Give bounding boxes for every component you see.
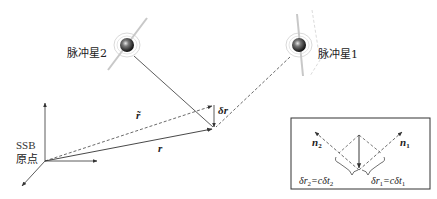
- r-label: r: [158, 142, 163, 154]
- origin-label: 原点: [16, 153, 38, 166]
- delta-r-label: δr: [218, 104, 229, 116]
- pulsar-2-star-icon: [120, 38, 134, 52]
- pulsar-1: 脉冲星1: [286, 10, 358, 76]
- line-of-sight-pulsar-1: [216, 57, 290, 127]
- ssb-label: SSB: [16, 139, 36, 151]
- inset-projection-box: n2 n1 δr2=cδt2 δr1=cδt1: [291, 118, 430, 189]
- r-tilde-label: r̃: [136, 109, 142, 121]
- line-of-sight-pulsar-2: [134, 56, 213, 127]
- pulsar-navigation-diagram: 脉冲星2 脉冲星1 SSB 原点 r̃ r δr: [0, 0, 437, 199]
- pulsar-2: 脉冲星2: [67, 18, 147, 70]
- pulsar-1-label: 脉冲星1: [318, 47, 358, 61]
- pulsar-2-label: 脉冲星2: [67, 46, 107, 60]
- pulsar-1-star-icon: [292, 38, 306, 52]
- ssb-axes: SSB 原点: [16, 103, 97, 186]
